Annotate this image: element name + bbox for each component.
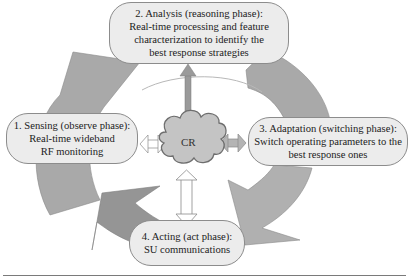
phase-box-analysis: 2. Analysis (reasoning phase): Real-time… bbox=[109, 2, 289, 64]
phase-acting-line: SU communications bbox=[144, 243, 230, 256]
phase-box-acting: 4. Acting (act phase): SU communications bbox=[129, 220, 245, 266]
phase-analysis-line: Real-time processing and feature bbox=[129, 20, 269, 33]
phase-sensing-title: 1. Sensing (observe phase): bbox=[14, 119, 131, 132]
phase-box-sensing: 1. Sensing (observe phase): Real-time wi… bbox=[6, 113, 138, 164]
cycle-inner-arc bbox=[142, 77, 262, 92]
phase-adaptation-title: 3. Adaptation (switching phase): bbox=[259, 122, 397, 135]
phase-analysis-title: 2. Analysis (reasoning phase): bbox=[135, 7, 263, 20]
link-arrow-acting-cr bbox=[176, 170, 197, 226]
phase-acting-title: 4. Acting (act phase): bbox=[142, 230, 233, 243]
phase-sensing-line: RF monitoring bbox=[41, 145, 104, 158]
bottom-divider bbox=[3, 275, 406, 276]
cr-label: CR bbox=[181, 136, 196, 148]
phase-analysis-line: best response strategies bbox=[149, 46, 248, 59]
phase-adaptation-line: best response ones bbox=[289, 148, 368, 161]
phase-box-adaptation: 3. Adaptation (switching phase): Switch … bbox=[248, 117, 408, 166]
phase-adaptation-line: Switch operating parameters to the bbox=[254, 135, 402, 148]
phase-analysis-line: characterization to identify the bbox=[134, 33, 264, 46]
phase-sensing-line: Real-time wideband bbox=[29, 132, 115, 145]
cognitive-radio-cycle-diagram: CR 2. Analysis (reasoning phase): Real-t… bbox=[0, 0, 409, 279]
